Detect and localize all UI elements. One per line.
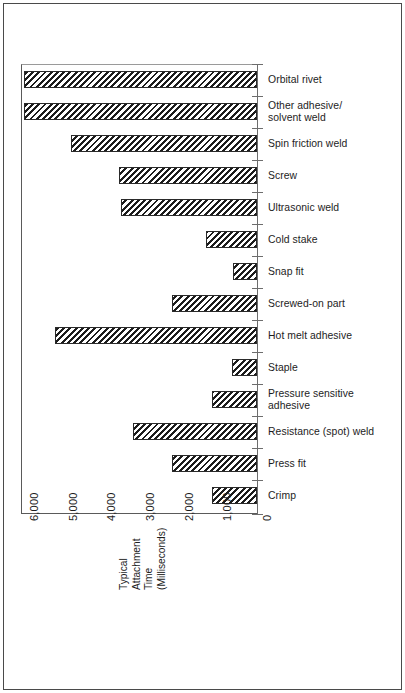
category-tick xyxy=(252,384,263,385)
category-label-press-fit: Press fit xyxy=(268,458,404,470)
x-tick-label-2000: 2,000 xyxy=(183,492,195,521)
x-tick-label-6000: 6,000 xyxy=(28,492,40,521)
category-label-screwed-on-part: Screwed-on part xyxy=(268,298,404,310)
bar-orbital-rivet xyxy=(24,71,257,88)
plot-area-frame xyxy=(21,64,258,514)
bar-press-fit xyxy=(172,455,257,472)
bar-staple xyxy=(232,359,257,376)
category-label-staple: Staple xyxy=(268,362,404,374)
x-axis-title: Typical Attachment Time (Milliseconds) xyxy=(118,528,168,590)
category-tick xyxy=(252,352,263,353)
category-tick xyxy=(252,96,263,97)
bar-screw xyxy=(119,167,257,184)
category-tick xyxy=(252,480,263,481)
category-label-spin-friction-weld: Spin friction weld xyxy=(268,138,404,150)
category-tick xyxy=(252,448,263,449)
bar-crimp xyxy=(212,487,257,504)
category-label-cold-stake: Cold stake xyxy=(268,234,404,246)
category-label-ultrasonic-weld: Ultrasonic weld xyxy=(268,202,404,214)
category-tick xyxy=(252,256,263,257)
category-tick xyxy=(252,416,263,417)
bar-ultrasonic-weld xyxy=(121,199,257,216)
category-tick xyxy=(252,192,263,193)
category-label-other-adhesive: Other adhesive/ solvent weld xyxy=(268,100,404,125)
category-tick xyxy=(252,288,263,289)
x-tick-label-1000: 1,000 xyxy=(221,492,233,521)
category-tick xyxy=(252,320,263,321)
category-tick xyxy=(252,64,263,65)
category-tick xyxy=(252,224,263,225)
bar-cold-stake xyxy=(206,231,257,248)
x-tick-label-0: 0 xyxy=(261,515,273,521)
category-tick xyxy=(252,160,263,161)
x-tick-label-4000: 4,000 xyxy=(105,492,117,521)
category-label-resistance-spot-weld: Resistance (spot) weld xyxy=(268,426,404,438)
horizontal-bar-chart: Orbital rivet Other adhesive/ solvent we… xyxy=(0,0,405,693)
x-tick-label-5000: 5,000 xyxy=(67,492,79,521)
category-label-crimp: Crimp xyxy=(268,490,404,502)
bar-spin-friction-weld xyxy=(71,135,257,152)
bar-resistance-spot-weld xyxy=(133,423,257,440)
category-tick xyxy=(252,128,263,129)
bar-hot-melt-adhesive xyxy=(55,327,257,344)
bar-pressure-sensitive xyxy=(212,391,257,408)
category-label-pressure-sensitive: Pressure sensitive adhesive xyxy=(268,388,404,413)
bar-other-adhesive xyxy=(24,103,257,120)
category-label-screw: Screw xyxy=(268,170,404,182)
x-tick-label-3000: 3,000 xyxy=(144,492,156,521)
category-label-hot-melt-adhesive: Hot melt adhesive xyxy=(268,330,404,342)
bar-snap-fit xyxy=(233,263,257,280)
category-label-orbital-rivet: Orbital rivet xyxy=(268,74,404,86)
bar-screwed-on-part xyxy=(172,295,257,312)
category-label-snap-fit: Snap fit xyxy=(268,266,404,278)
